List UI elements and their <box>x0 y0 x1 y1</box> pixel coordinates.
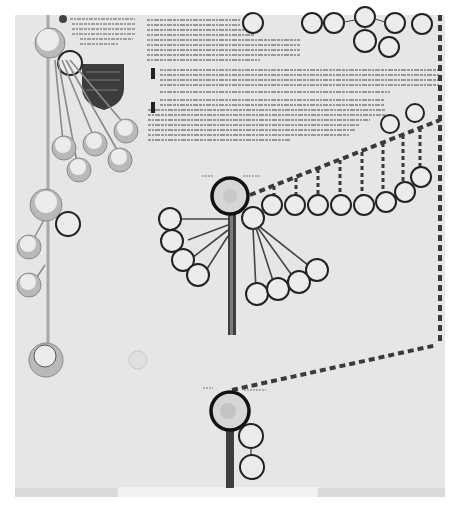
initial-letter-2 <box>151 102 155 113</box>
faint-stamp <box>129 351 147 369</box>
roundel-black-2 <box>56 212 80 236</box>
manuscript-page <box>0 0 458 514</box>
lower-child-roundel-2 <box>240 455 264 479</box>
lower-child-roundel-1 <box>239 424 263 448</box>
roundel-black-1 <box>58 51 82 75</box>
initial-letter-1 <box>151 68 155 79</box>
roundel-black-3 <box>242 207 264 229</box>
footer-caption <box>0 500 458 514</box>
